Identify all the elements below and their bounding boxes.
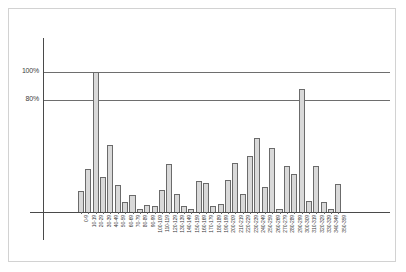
- x-tick-label: 80-89: [142, 215, 148, 227]
- bar: [240, 194, 246, 212]
- x-tick-label: 170-179: [208, 215, 214, 233]
- x-tick-label: 210-219: [238, 215, 244, 233]
- bar: [225, 180, 231, 212]
- x-tick-label: 0-9: [83, 215, 89, 222]
- plot-area: 100%80% 0-910-1920-2930-3940-4950-5960-6…: [0, 0, 406, 272]
- bar: [306, 201, 312, 212]
- x-tick-mark: [184, 212, 185, 214]
- bar: [159, 190, 165, 212]
- x-tick-label: 350-359: [341, 215, 347, 233]
- x-tick-label: 190-199: [223, 215, 229, 233]
- x-tick-mark: [257, 212, 258, 214]
- x-tick-label: 150-159: [194, 215, 200, 233]
- x-tick-label: 240-249: [260, 215, 266, 233]
- x-tick-mark: [125, 212, 126, 214]
- x-tick-mark: [280, 212, 281, 214]
- bar: [232, 163, 238, 212]
- bar: [262, 187, 268, 212]
- x-tick-label: 70-79: [135, 215, 141, 227]
- x-tick-mark: [96, 212, 97, 214]
- x-tick-mark: [118, 212, 119, 214]
- bar: [144, 205, 150, 212]
- x-tick-label: 160-169: [201, 215, 207, 233]
- bar: [129, 195, 135, 212]
- bar: [291, 174, 297, 212]
- x-tick-label: 110-119: [164, 215, 170, 232]
- bar: [218, 204, 224, 212]
- x-tick-mark: [199, 212, 200, 214]
- x-tick-label: 220-229: [245, 215, 251, 233]
- x-tick-mark: [81, 212, 82, 214]
- bar: [115, 185, 121, 212]
- x-tick-mark: [287, 212, 288, 214]
- x-tick-label: 140-149: [186, 215, 192, 233]
- x-tick-mark: [324, 212, 325, 214]
- bar: [107, 145, 113, 212]
- x-tick-label: 330-339: [326, 215, 332, 233]
- bar: [299, 89, 305, 212]
- x-tick-mark: [206, 212, 207, 214]
- bar: [335, 184, 341, 212]
- bar: [269, 148, 275, 212]
- x-tick-mark: [272, 212, 273, 214]
- x-tick-mark: [88, 212, 89, 214]
- y-tick-label-80: 80%: [9, 95, 39, 102]
- x-tick-mark: [133, 212, 134, 214]
- bar: [196, 181, 202, 212]
- x-tick-label: 60-69: [128, 215, 134, 227]
- x-tick-mark: [338, 212, 339, 214]
- x-tick-label: 340-349: [333, 215, 339, 233]
- x-tick-mark: [250, 212, 251, 214]
- x-tick-mark: [191, 212, 192, 214]
- x-tick-label: 30-39: [106, 215, 112, 227]
- x-tick-label: 300-309: [304, 215, 310, 233]
- x-tick-mark: [162, 212, 163, 214]
- bar: [321, 202, 327, 212]
- x-tick-mark: [294, 212, 295, 214]
- x-tick-label: 90-99: [150, 215, 156, 227]
- x-tick-mark: [309, 212, 310, 214]
- x-tick-mark: [169, 212, 170, 214]
- x-tick-label: 20-29: [98, 215, 104, 227]
- x-tick-label: 310-319: [311, 215, 317, 233]
- x-tick-mark: [110, 212, 111, 214]
- x-tick-mark: [235, 212, 236, 214]
- x-tick-mark: [147, 212, 148, 214]
- x-tick-label: 130-139: [179, 215, 185, 233]
- x-tick-label: 290-299: [297, 215, 303, 233]
- x-tick-label: 230-239: [253, 215, 259, 233]
- x-tick-label: 120-129: [172, 215, 178, 233]
- x-tick-label: 40-49: [113, 215, 119, 227]
- x-tick-mark: [228, 212, 229, 214]
- bar: [174, 194, 180, 212]
- chart-figure: 100%80% 0-910-1920-2930-3940-4950-5960-6…: [0, 0, 406, 272]
- bar: [203, 183, 209, 212]
- x-tick-label: 250-259: [267, 215, 273, 233]
- x-tick-mark: [243, 212, 244, 214]
- x-tick-label: 100-109: [157, 215, 163, 233]
- x-tick-label: 270-279: [282, 215, 288, 233]
- x-tick-label: 50-59: [120, 215, 126, 227]
- x-tick-mark: [155, 212, 156, 214]
- x-tick-mark: [177, 212, 178, 214]
- x-tick-mark: [265, 212, 266, 214]
- x-tick-label: 320-329: [319, 215, 325, 233]
- bar: [122, 202, 128, 212]
- x-tick-label: 260-269: [275, 215, 281, 233]
- x-axis-line: [30, 212, 390, 213]
- bar: [78, 191, 84, 212]
- bar: [254, 138, 260, 212]
- bar: [85, 169, 91, 212]
- x-tick-mark: [331, 212, 332, 214]
- x-tick-mark: [221, 212, 222, 214]
- y-axis-line: [43, 38, 44, 240]
- x-tick-mark: [213, 212, 214, 214]
- x-tick-mark: [103, 212, 104, 214]
- bar: [247, 156, 253, 212]
- bar: [93, 72, 99, 212]
- x-tick-mark: [140, 212, 141, 214]
- bar: [100, 177, 106, 212]
- bar: [166, 164, 172, 212]
- bar: [313, 166, 319, 212]
- x-tick-label: 180-189: [216, 215, 222, 233]
